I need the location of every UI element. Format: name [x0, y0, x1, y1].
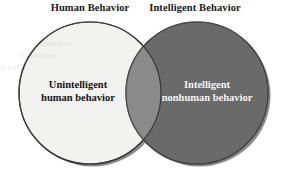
venn-diagram-figure: Human Behavior Intelligent Behavior scan… [0, 0, 282, 175]
venn-circles-graphic [0, 0, 282, 175]
